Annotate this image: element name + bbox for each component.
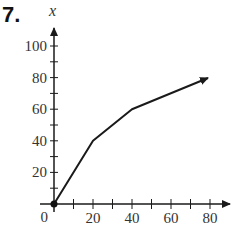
x-tick-label: 20 xyxy=(86,210,101,226)
y-axis-label: x xyxy=(48,2,56,19)
y-tick-label: 100 xyxy=(25,38,48,54)
origin-dot xyxy=(51,201,58,208)
y-tick-label: 60 xyxy=(32,101,47,117)
line-chart: x 100 80 60 40 20 0 20 40 60 80 xyxy=(0,0,239,237)
y-tick-label: 40 xyxy=(32,133,47,149)
y-tick-label: 20 xyxy=(32,164,47,180)
origin-label: 0 xyxy=(41,209,49,225)
x-tick-label: 40 xyxy=(125,210,140,226)
data-line xyxy=(54,78,208,204)
x-tick-label: 60 xyxy=(164,210,179,226)
y-tick-label: 80 xyxy=(32,70,47,86)
x-tick-label: 80 xyxy=(203,210,218,226)
